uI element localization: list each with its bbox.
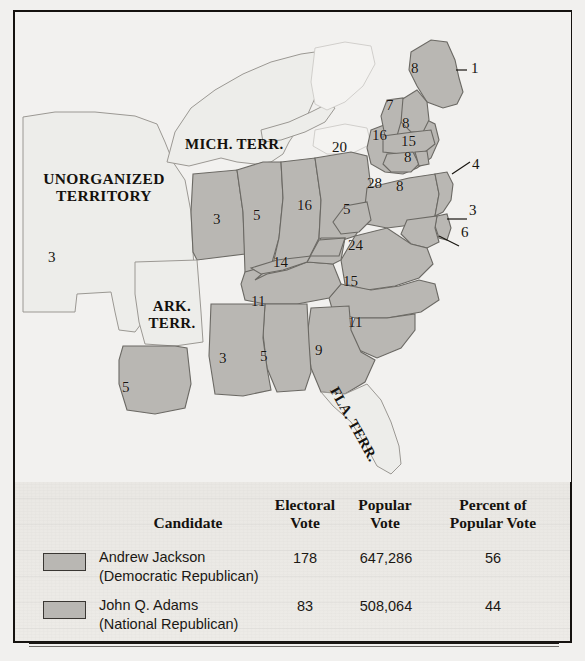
- percent-jackson: 56: [433, 550, 553, 566]
- ev-maine: 8: [411, 61, 419, 76]
- ev-maryland: 6: [461, 225, 469, 240]
- table-header-popular-line1: Popular: [347, 496, 423, 514]
- ev-ohio: 20: [332, 140, 347, 155]
- ev-indiana: 5: [253, 208, 261, 223]
- ev-illinois: 3: [213, 212, 221, 227]
- table-header-popular-line2: Vote: [347, 514, 423, 532]
- ev-georgia: 9: [315, 343, 323, 358]
- map-area: .st{fill:#b9b7b3;stroke:#6b6964;stroke-w…: [15, 12, 571, 482]
- ev-new-york: 16: [372, 128, 387, 143]
- state-connecticut: [383, 152, 419, 172]
- ev-virginia-north: 8: [396, 179, 404, 194]
- figure-frame: .st{fill:#b9b7b3;stroke:#6b6964;stroke-w…: [13, 10, 572, 643]
- ev-maine-callout: 1: [471, 61, 479, 76]
- legend-swatch-jackson: [43, 553, 86, 571]
- territory-label-unorganized: UNORGANIZED TERRITORY: [29, 170, 179, 205]
- territory-label-michigan: MICH. TERR.: [185, 136, 283, 153]
- ev-alabama: 5: [260, 349, 268, 364]
- table-header-electoral-line1: Electoral: [267, 496, 343, 514]
- percent-adams: 44: [433, 598, 553, 614]
- candidate-name-adams: John Q. Adams (National Republican): [99, 596, 238, 633]
- popular-vote-adams: 508,064: [341, 598, 431, 614]
- ev-virginia: 24: [348, 238, 363, 253]
- ev-missouri: 3: [48, 250, 56, 265]
- ev-new-hampshire: 7: [386, 98, 394, 113]
- us-map-svg: .st{fill:#b9b7b3;stroke:#6b6964;stroke-w…: [15, 12, 571, 482]
- ev-louisiana: 5: [122, 380, 130, 395]
- ev-mississippi: 3: [219, 351, 227, 366]
- ev-pennsylvania: 28: [367, 176, 382, 191]
- ev-delaware: 3: [469, 203, 477, 218]
- ev-south-carolina: 11: [348, 315, 362, 330]
- ev-connecticut: 15: [401, 134, 416, 149]
- ev-new-jersey: 4: [472, 157, 480, 172]
- table-header-percent-line1: Percent of: [433, 496, 553, 514]
- table-header-electoral-line2: Vote: [267, 514, 343, 532]
- table-header-candidate: Candidate: [133, 514, 243, 532]
- ev-virginia-west: 5: [343, 202, 351, 217]
- table-bottom-rule-thin: [29, 646, 559, 647]
- candidate-name-jackson: Andrew Jackson (Democratic Republican): [99, 548, 259, 585]
- ev-ohio-16: 16: [297, 198, 312, 213]
- ev-massachusetts: 8: [402, 116, 410, 131]
- table-header-percent-line2: Popular Vote: [433, 514, 553, 532]
- ev-north-carolina: 15: [343, 274, 358, 289]
- table-bottom-rule: [29, 642, 559, 644]
- ev-tennessee: 11: [251, 294, 265, 309]
- ev-rhode-island: 8: [404, 150, 412, 165]
- results-table: Candidate Electoral Vote Popular Vote Pe…: [29, 490, 559, 650]
- election-map-figure: .st{fill:#b9b7b3;stroke:#6b6964;stroke-w…: [0, 0, 585, 661]
- legend-swatch-adams: [43, 601, 86, 619]
- electoral-vote-jackson: 178: [267, 550, 343, 566]
- popular-vote-jackson: 647,286: [341, 550, 431, 566]
- territory-label-arkansas: ARK. TERR.: [141, 298, 203, 332]
- ev-kentucky: 14: [273, 255, 288, 270]
- electoral-vote-adams: 83: [267, 598, 343, 614]
